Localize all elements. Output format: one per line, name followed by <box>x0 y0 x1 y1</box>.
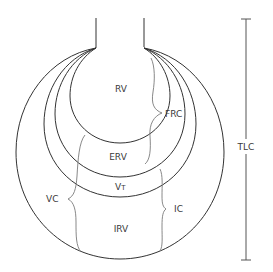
frc-brace <box>145 58 162 164</box>
label-vt: VT <box>115 182 126 192</box>
label-ic: IC <box>174 204 183 214</box>
rv-boundary <box>70 48 170 143</box>
label-irv: IRV <box>114 224 129 234</box>
label-rv: RV <box>115 84 128 94</box>
label-frc: FRC <box>165 109 182 119</box>
label-vt-sub: T <box>120 184 126 192</box>
ic-brace <box>160 169 166 251</box>
label-erv: ERV <box>109 152 127 162</box>
vt-boundary <box>44 48 196 197</box>
label-vc: VC <box>46 194 58 204</box>
label-tlc: TLC <box>237 142 255 152</box>
airway <box>96 18 144 48</box>
tlc-bar <box>241 19 251 260</box>
lung-volumes-diagram: RV FRC ERV VT IRV IC VC TLC <box>0 0 273 272</box>
vc-brace <box>68 135 85 252</box>
